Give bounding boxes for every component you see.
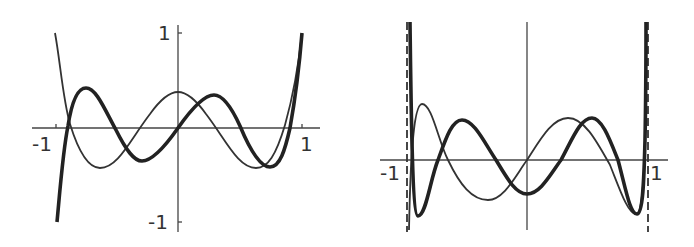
- right-thick-curve: [410, 22, 646, 216]
- right-plot: -1 1: [380, 22, 668, 232]
- left-xtick-1: 1: [300, 132, 313, 156]
- left-ytick-neg1: -1: [148, 210, 168, 234]
- right-xtick-neg1: -1: [380, 161, 400, 185]
- left-ytick-1: 1: [158, 21, 171, 45]
- figure: -1 1 1 -1 -1 1: [0, 0, 694, 247]
- left-plot: -1 1 1 -1: [32, 21, 320, 234]
- right-xtick-1: 1: [650, 161, 663, 185]
- left-xtick-neg1: -1: [32, 132, 52, 156]
